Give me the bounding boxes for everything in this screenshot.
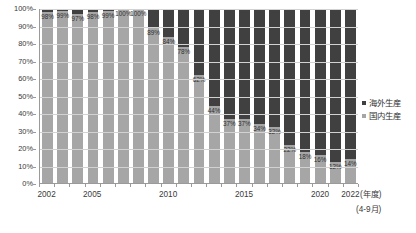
bar-segment-domestic: 12% — [330, 162, 341, 183]
x-axis-tick-mark — [297, 184, 298, 187]
x-axis-tick-mark — [343, 184, 344, 187]
x-axis-tick-mark — [54, 184, 55, 187]
legend-item[interactable]: 国内生産 — [362, 111, 401, 121]
stacked-bar[interactable]: 44% — [209, 9, 220, 183]
bar-segment-domestic: 37% — [224, 119, 235, 183]
stacked-bar[interactable]: 100% — [133, 9, 144, 183]
y-axis-tick-mark — [33, 114, 36, 115]
bar-data-label: 14% — [344, 160, 357, 167]
bar-segment-domestic: 62% — [194, 75, 205, 183]
stacked-bar[interactable]: 99% — [57, 9, 68, 183]
bar-slot: 22% — [282, 9, 297, 183]
x-axis-tick-mark — [236, 184, 237, 187]
bar-slot: 97% — [70, 9, 85, 183]
stacked-bar[interactable]: 12% — [330, 9, 341, 183]
y-axis: 0%10%20%30%40%50%60%70%80%90%100% — [0, 9, 36, 184]
bar-data-label: 34% — [253, 125, 266, 132]
x-axis-tick-mark — [176, 184, 177, 187]
x-axis-unit-label: (年度) — [360, 190, 381, 200]
bar-segment-domestic: 100% — [133, 9, 144, 183]
y-axis-tick-label: 90% — [18, 23, 33, 31]
y-axis-tick-mark — [33, 184, 36, 185]
stacked-bar-chart: 0%10%20%30%40%50%60%70%80%90%100% 98%99%… — [0, 0, 416, 233]
x-axis-tick-mark — [206, 184, 207, 187]
y-axis-tick-label: 50% — [18, 93, 33, 101]
bar-slot: 37% — [237, 9, 252, 183]
x-axis-tick-mark — [252, 184, 253, 187]
y-axis-tick-label: 30% — [18, 128, 33, 136]
stacked-bar[interactable]: 37% — [239, 9, 250, 183]
x-axis-tick-label: 2002 — [37, 190, 55, 200]
stacked-bar[interactable]: 22% — [284, 9, 295, 183]
bar-slot: 37% — [222, 9, 237, 183]
bar-segment-overseas — [284, 9, 295, 145]
stacked-bar[interactable]: 18% — [300, 9, 311, 183]
stacked-bar[interactable]: 37% — [224, 9, 235, 183]
stacked-bar[interactable]: 14% — [345, 9, 356, 183]
bar-segment-domestic: 14% — [345, 159, 356, 183]
bar-slot: 16% — [313, 9, 328, 183]
y-axis-tick-label: 100% — [14, 5, 33, 13]
bar-data-label: 32% — [268, 128, 281, 135]
bar-segment-overseas — [148, 9, 159, 28]
stacked-bar[interactable]: 98% — [88, 9, 99, 183]
bar-data-label: 84% — [162, 38, 175, 45]
y-axis-tick-label: 60% — [18, 75, 33, 83]
bar-slot: 44% — [207, 9, 222, 183]
bar-data-label: 89% — [147, 29, 160, 36]
x-axis-tick-mark — [145, 184, 146, 187]
stacked-bar[interactable]: 78% — [178, 9, 189, 183]
legend-item[interactable]: 海外生産 — [362, 98, 401, 108]
bar-slot: 89% — [146, 9, 161, 183]
bar-data-label: 100% — [115, 10, 131, 17]
x-axis-tick-mark — [221, 184, 222, 187]
bar-segment-overseas — [209, 9, 220, 106]
stacked-bar[interactable]: 16% — [315, 9, 326, 183]
x-axis-tick-mark — [130, 184, 131, 187]
stacked-bar[interactable]: 84% — [163, 9, 174, 183]
y-axis-tick-label: 10% — [18, 163, 33, 171]
bar-segment-overseas — [163, 9, 174, 37]
y-axis-tick-mark — [33, 97, 36, 98]
x-axis-tick-mark — [100, 184, 101, 187]
bar-segment-domestic: 98% — [88, 12, 99, 183]
stacked-bar[interactable]: 32% — [269, 9, 280, 183]
y-axis-tick-label: 70% — [18, 58, 33, 66]
bar-segment-overseas — [330, 9, 341, 162]
bar-data-label: 78% — [178, 48, 191, 55]
y-axis-tick-mark — [33, 9, 36, 10]
x-axis-tick-mark — [328, 184, 329, 187]
stacked-bar[interactable]: 62% — [194, 9, 205, 183]
y-axis-tick-mark — [33, 62, 36, 63]
stacked-bar[interactable]: 34% — [254, 9, 265, 183]
bar-segment-overseas — [269, 9, 280, 127]
bar-segment-overseas — [178, 9, 189, 47]
x-axis-tick-mark — [69, 184, 70, 187]
bar-segment-domestic: 98% — [42, 12, 53, 183]
stacked-bar[interactable]: 100% — [118, 9, 129, 183]
x-axis-tick-mark — [267, 184, 268, 187]
bar-data-label: 97% — [72, 15, 85, 22]
bar-data-label: 12% — [329, 163, 342, 170]
x-axis-tick-mark — [161, 184, 162, 187]
bar-slot: 98% — [85, 9, 100, 183]
y-axis-tick-label: 80% — [18, 40, 33, 48]
x-axis-tick-mark — [312, 184, 313, 187]
bar-segment-overseas — [239, 9, 250, 119]
legend-label: 国内生産 — [369, 111, 401, 121]
legend-swatch-icon — [362, 101, 366, 105]
bar-slot: 84% — [161, 9, 176, 183]
x-axis-tick-mark — [282, 184, 283, 187]
stacked-bar[interactable]: 97% — [72, 9, 83, 183]
bar-data-label: 16% — [314, 156, 327, 163]
bar-segment-domestic: 97% — [72, 14, 83, 183]
x-axis-tick-label: 2010 — [159, 190, 177, 200]
bar-data-label: 99% — [102, 12, 115, 19]
bar-segment-domestic: 78% — [178, 47, 189, 183]
x-axis-tick-mark — [39, 184, 40, 187]
bar-segment-domestic: 32% — [269, 127, 280, 183]
stacked-bar[interactable]: 98% — [42, 9, 53, 183]
y-axis-tick-label: 40% — [18, 110, 33, 118]
stacked-bar[interactable]: 89% — [148, 9, 159, 183]
stacked-bar[interactable]: 99% — [103, 9, 114, 183]
